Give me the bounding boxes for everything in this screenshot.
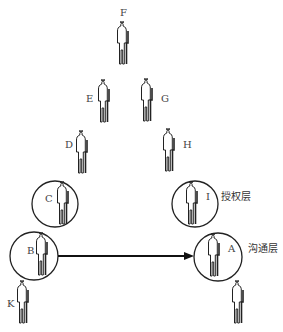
label-B: B	[27, 246, 34, 256]
person-G	[142, 79, 153, 121]
label-D: D	[65, 140, 73, 150]
diagram-canvas	[0, 0, 283, 332]
communication-layer-label: 沟通层	[248, 244, 278, 254]
person-K	[233, 281, 244, 323]
label-F: F	[120, 8, 127, 18]
person-C	[58, 182, 69, 224]
arrow-B-to-J	[58, 252, 194, 260]
person-J	[209, 234, 220, 276]
person-H	[164, 129, 175, 171]
circle-C	[32, 181, 78, 227]
label-I: I	[206, 192, 210, 202]
label-C: C	[45, 194, 53, 204]
label-G: G	[161, 94, 169, 104]
person-A	[18, 281, 29, 323]
authorization-layer-label: 授权层	[221, 192, 251, 202]
circle-B	[10, 232, 58, 280]
person-E	[99, 80, 110, 122]
label-H: H	[183, 140, 192, 150]
label-J: A	[228, 244, 235, 254]
person-D	[77, 131, 88, 173]
person-I	[187, 182, 198, 224]
person-B	[37, 233, 48, 275]
label-E: E	[86, 94, 93, 104]
person-F	[118, 22, 129, 64]
label-A: K	[7, 299, 14, 309]
